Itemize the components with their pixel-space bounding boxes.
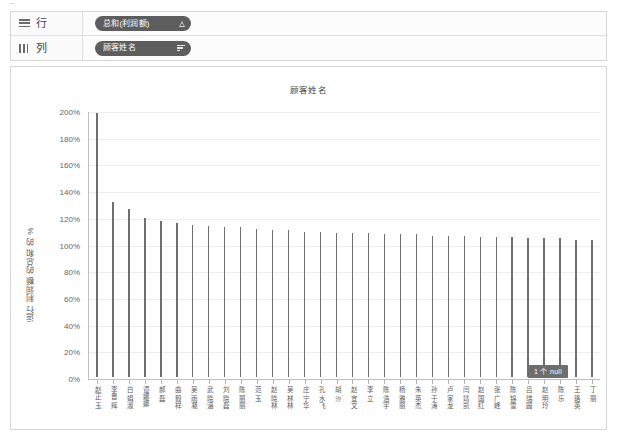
x-axis-tick-label[interactable]: 李晋 辉	[110, 386, 117, 409]
triangle-measure-icon[interactable]	[179, 21, 185, 27]
gridline	[89, 192, 600, 193]
y-axis-tick-label: 140%	[35, 188, 85, 197]
bar[interactable]	[208, 226, 209, 377]
x-axis-tick-label[interactable]: 范 玉	[253, 386, 260, 402]
sort-descending-icon[interactable]	[177, 45, 185, 52]
bar[interactable]	[320, 232, 321, 378]
x-axis-tick	[225, 380, 226, 384]
x-axis-tick-label[interactable]: 曲 毅祥	[174, 386, 181, 409]
y-axis-tick-label: 120%	[35, 214, 85, 223]
rows-icon	[19, 19, 30, 28]
bar[interactable]	[112, 202, 113, 377]
bar[interactable]	[432, 236, 433, 378]
x-axis-tick-label[interactable]: 陈 丽丽	[237, 386, 244, 409]
x-axis-tick-label[interactable]: 吕 瑞圆	[525, 386, 532, 409]
bar[interactable]	[591, 240, 592, 378]
bar[interactable]	[352, 233, 353, 377]
bar[interactable]	[496, 237, 497, 377]
x-axis-tick-label[interactable]: 丁 丽	[589, 386, 596, 402]
bar[interactable]	[144, 218, 145, 377]
bar[interactable]	[480, 237, 481, 377]
bar[interactable]	[511, 237, 512, 377]
bar[interactable]	[543, 238, 544, 377]
y-axis-tick-label: 60%	[35, 294, 85, 303]
bar[interactable]	[400, 234, 401, 377]
bar[interactable]	[256, 229, 257, 377]
bar[interactable]	[128, 209, 129, 377]
bar[interactable]	[464, 236, 465, 378]
x-axis-tick-label[interactable]: 吴 林林	[285, 386, 292, 409]
columns-shelf-drop-zone[interactable]: 顾客姓名	[83, 36, 606, 60]
x-axis-tick-label[interactable]: 王 珞英	[573, 386, 580, 409]
bar[interactable]	[336, 233, 337, 377]
x-axis-tick	[368, 380, 369, 384]
x-axis-tick-label[interactable]: 闫 靖凯	[461, 386, 468, 409]
x-axis-tick-label[interactable]: 白 娟淑	[126, 386, 133, 409]
bar[interactable]	[304, 232, 305, 378]
bar[interactable]	[575, 240, 576, 378]
x-axis-tick-label[interactable]: 庄 宁华	[301, 386, 308, 409]
gridline	[89, 139, 600, 140]
null-indicator-badge[interactable]: 1 个 null	[528, 365, 568, 378]
x-axis-tick	[113, 380, 114, 384]
pill-customer-name[interactable]: 顾客姓名	[95, 41, 191, 56]
x-axis-tick-label[interactable]: 陈 锦雪	[509, 386, 516, 409]
bar[interactable]	[224, 227, 225, 377]
bar[interactable]	[160, 221, 161, 377]
gridline	[89, 326, 600, 327]
x-axis-tick	[193, 380, 194, 384]
bar[interactable]	[448, 236, 449, 378]
columns-shelf[interactable]: 列 顾客姓名	[11, 36, 606, 60]
x-axis-tick	[145, 380, 146, 384]
pill-sum-profit-label: 总和(利润额)	[103, 20, 150, 28]
x-axis-tick-label[interactable]: 杨 雅丽	[397, 386, 404, 409]
rows-shelf-label: 行	[11, 12, 83, 35]
x-axis-tick-label[interactable]: 刘 晓磊	[221, 386, 228, 409]
x-axis-tick-label[interactable]: 卢 家龙	[445, 386, 452, 409]
pill-sum-profit[interactable]: 总和(利润额)	[95, 16, 191, 31]
y-axis-tick-label: 200%	[35, 108, 85, 117]
y-axis-tick-label: 40%	[35, 321, 85, 330]
x-axis-tick-label[interactable]: 孙 于涛	[429, 386, 436, 409]
corner-mark-icon	[10, 1, 15, 6]
plot-area[interactable]: 0%20%40%60%80%100%120%140%160%180%200%赵正…	[11, 67, 606, 429]
x-axis-tick-label[interactable]: 朱 英杰	[413, 386, 420, 409]
bar[interactable]	[527, 238, 528, 377]
bar[interactable]	[176, 223, 177, 377]
x-axis-tick	[432, 380, 433, 384]
bar[interactable]	[96, 113, 97, 377]
x-axis-tick	[480, 380, 481, 384]
x-axis-tick	[305, 380, 306, 384]
x-axis-tick-label[interactable]: 郝 磊	[158, 386, 165, 402]
x-axis-tick-label[interactable]: 张 广峰	[493, 386, 500, 409]
x-axis-tick-label[interactable]: 赵正 玉	[94, 386, 101, 409]
rows-shelf[interactable]: 行 总和(利润额)	[11, 12, 606, 36]
x-axis-tick	[512, 380, 513, 384]
x-axis-tick-label[interactable]: 李 立	[365, 386, 372, 402]
bar[interactable]	[288, 230, 289, 377]
bar[interactable]	[368, 233, 369, 377]
bar[interactable]	[240, 227, 241, 377]
x-axis-tick	[544, 380, 545, 384]
chart-card: 顾客姓名 运行 利润额 的总和 的 % 0%20%40%60%80%100%12…	[10, 66, 607, 430]
rows-shelf-drop-zone[interactable]: 总和(利润额)	[83, 12, 606, 35]
bar[interactable]	[559, 238, 560, 377]
bar[interactable]	[416, 234, 417, 377]
x-axis-tick-label[interactable]: 谭娜娜	[142, 386, 149, 407]
x-axis-tick-label[interactable]: 武 晓涵	[206, 386, 213, 409]
x-axis-tick	[496, 380, 497, 384]
x-axis-tick-label[interactable]: 陈 乐	[557, 386, 564, 402]
bar[interactable]	[192, 225, 193, 377]
x-axis-tick-label[interactable]: 赵 国红	[477, 386, 484, 409]
x-axis-tick	[257, 380, 258, 384]
x-axis-tick	[321, 380, 322, 384]
bar[interactable]	[272, 230, 273, 377]
x-axis-tick-label[interactable]: 吴 雨凝	[190, 386, 197, 409]
x-axis-tick-label[interactable]: 陈 浩宇	[381, 386, 388, 409]
x-axis-tick-label[interactable]: 赵 宜文	[349, 386, 356, 409]
x-axis-tick-label[interactable]: 赵 晓林	[269, 386, 276, 409]
bar[interactable]	[384, 234, 385, 377]
x-axis-tick-label[interactable]: 孔 水飞	[317, 386, 324, 409]
x-axis-tick-label[interactable]: 胡 沙	[333, 386, 340, 402]
x-axis-tick-label[interactable]: 赵 明玲	[541, 386, 548, 409]
